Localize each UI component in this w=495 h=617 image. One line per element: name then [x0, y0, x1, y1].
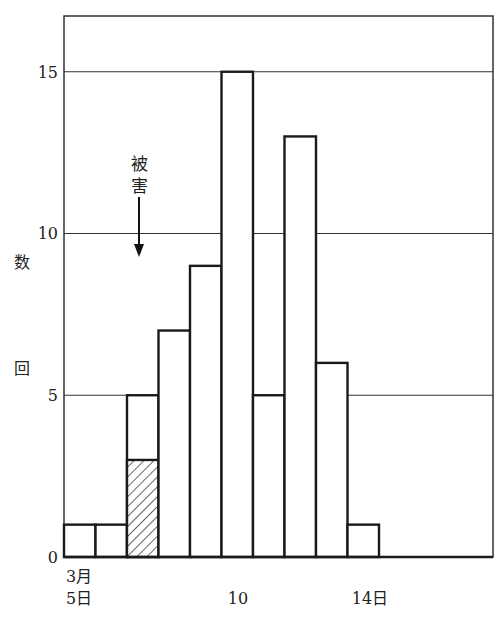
bar-hatched-damage — [127, 460, 159, 557]
bar-14日 — [348, 525, 380, 557]
annotation-char2: 害 — [131, 176, 148, 196]
bar-9 — [190, 266, 222, 557]
ytick-0: 0 — [48, 548, 58, 567]
bar-6 — [96, 525, 128, 557]
ytick-5: 5 — [48, 386, 58, 405]
bar-11 — [253, 395, 285, 557]
ytick-15: 15 — [38, 63, 58, 82]
xtick-10: 10 — [228, 589, 248, 608]
bar-8 — [159, 331, 191, 557]
arrow-down-icon — [134, 197, 144, 257]
bar-13 — [316, 363, 348, 557]
annotation-char1: 被 — [131, 154, 148, 174]
ylabel-char-bottom: 回 — [14, 359, 30, 378]
histogram-chart: 15 10 5 0 数 回 3月 5日 10 14日 被 害 — [0, 0, 495, 617]
bars — [64, 72, 379, 557]
xtick-first-line1: 3月 — [66, 567, 92, 586]
gridlines — [64, 72, 493, 396]
bar-12 — [285, 136, 317, 557]
ytick-10: 10 — [38, 224, 58, 243]
bar-3月5日 — [64, 525, 96, 557]
xtick-first-line2: 5日 — [66, 589, 92, 608]
bar-10 — [222, 72, 254, 557]
xtick-14: 14日 — [352, 589, 388, 608]
ylabel-char-top: 数 — [14, 253, 30, 272]
